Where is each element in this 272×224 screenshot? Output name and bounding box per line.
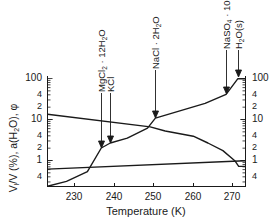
y-log-ticks	[48, 79, 246, 182]
left-tick-label: 1	[36, 154, 42, 165]
x-tick-label: 230	[66, 191, 83, 202]
right-tick-label: 1	[252, 154, 258, 165]
left-tick-label: 4	[37, 171, 42, 181]
x-tick-label: 270	[224, 191, 241, 202]
annotation-arrows	[99, 50, 242, 148]
right-tick-labels: 100 4 2 10 4 2 1 4	[252, 72, 269, 181]
series-phi-line	[48, 161, 246, 169]
right-tick-label: 4	[252, 89, 257, 99]
chart-figure: 230 240 250 260 270 Temperature (K) 100 …	[0, 0, 272, 224]
series-water-activity-line	[48, 114, 246, 166]
left-tick-label: 2	[37, 101, 42, 111]
annotation-nacl: NaCl · 2H2O	[150, 16, 162, 69]
right-tick-label: 2	[252, 101, 257, 111]
right-tick-label: 2	[252, 142, 257, 152]
x-tick-label: 260	[185, 191, 202, 202]
x-ticks	[75, 183, 233, 186]
left-tick-label: 100	[25, 72, 42, 83]
right-tick-label: 100	[252, 72, 269, 83]
right-tick-label: 4	[252, 130, 257, 140]
annotation-kcl: KCl	[105, 77, 116, 92]
right-tick-label: 4	[252, 171, 257, 181]
annotation-h2o-solid: H2O(s)	[233, 20, 245, 49]
plot-frame	[47, 76, 246, 187]
annotation-labels: MgCl2 · 12H2O KCl NaCl · 2H2O NaSO4 · 10…	[96, 0, 246, 92]
left-tick-label: 4	[37, 130, 42, 140]
series-liquid-volume-line	[48, 79, 246, 187]
x-tick-label: 240	[106, 191, 123, 202]
left-tick-labels: 100 4 2 10 4 2 1 4	[25, 72, 42, 181]
left-tick-label: 4	[37, 89, 42, 99]
left-tick-label: 2	[37, 142, 42, 152]
series-lines	[48, 79, 246, 187]
y-axis-label: Vl/V (%), a(H2O), φ	[7, 103, 20, 192]
x-tick-label: 250	[145, 191, 162, 202]
left-tick-label: 10	[31, 113, 43, 124]
x-axis-label: Temperature (K)	[106, 205, 185, 217]
x-tick-labels: 230 240 250 260 270	[66, 191, 241, 202]
right-tick-label: 10	[252, 113, 264, 124]
annotation-naso4: NaSO4 · 10H2O	[221, 0, 233, 49]
